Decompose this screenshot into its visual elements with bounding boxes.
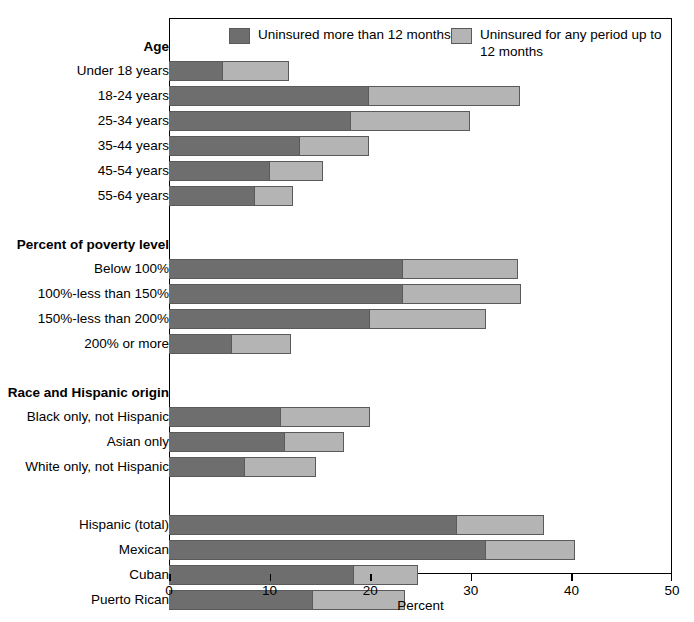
bars-layer	[169, 18, 672, 574]
group-heading-age: Age	[3, 40, 169, 54]
category-label: Cuban	[3, 568, 169, 582]
category-label: 55-64 years	[3, 189, 169, 203]
x-axis-tick	[169, 574, 171, 581]
x-axis-tick	[571, 574, 573, 581]
bar-row	[169, 457, 316, 477]
bar-segment-uninsured-any-period-up-to-12-months	[270, 161, 323, 181]
bar-segment-uninsured-any-period-up-to-12-months	[351, 111, 470, 131]
bar-segment-uninsured-more-than-12-months	[169, 111, 351, 131]
bar-segment-uninsured-more-than-12-months	[169, 334, 232, 354]
category-label: Puerto Rican	[3, 593, 169, 607]
x-axis-tick-label: 50	[664, 583, 679, 598]
category-label: Hispanic (total)	[3, 518, 169, 532]
bar-segment-uninsured-more-than-12-months	[169, 432, 285, 452]
category-label: Black only, not Hispanic	[3, 410, 169, 424]
category-label: Mexican	[3, 543, 169, 557]
bar-segment-uninsured-more-than-12-months	[169, 565, 354, 585]
x-axis-tick	[270, 574, 272, 581]
bar-segment-uninsured-any-period-up-to-12-months	[354, 565, 418, 585]
bar-row	[169, 515, 544, 535]
bar-row	[169, 309, 486, 329]
bar-segment-uninsured-more-than-12-months	[169, 86, 369, 106]
bar-segment-uninsured-more-than-12-months	[169, 136, 300, 156]
bar-segment-uninsured-any-period-up-to-12-months	[403, 284, 521, 304]
stacked-bar-chart: Uninsured more than 12 months Uninsured …	[0, 0, 694, 622]
bar-segment-uninsured-more-than-12-months	[169, 457, 245, 477]
x-axis-tick	[671, 574, 673, 581]
bar-segment-uninsured-more-than-12-months	[169, 61, 223, 81]
bar-segment-uninsured-any-period-up-to-12-months	[245, 457, 315, 477]
category-label: White only, not Hispanic	[3, 460, 169, 474]
bar-segment-uninsured-more-than-12-months	[169, 407, 281, 427]
bar-row	[169, 334, 291, 354]
x-axis-tick-label: 10	[262, 583, 277, 598]
bar-segment-uninsured-more-than-12-months	[169, 186, 255, 206]
bar-row	[169, 407, 370, 427]
category-label: Asian only	[3, 435, 169, 449]
bar-row	[169, 61, 289, 81]
bar-segment-uninsured-any-period-up-to-12-months	[300, 136, 369, 156]
bar-segment-uninsured-any-period-up-to-12-months	[281, 407, 371, 427]
bar-segment-uninsured-more-than-12-months	[169, 161, 270, 181]
category-label: 18-24 years	[3, 89, 169, 103]
category-label: 150%-less than 200%	[3, 312, 169, 326]
bar-segment-uninsured-any-period-up-to-12-months	[255, 186, 293, 206]
x-axis: 01020304050	[169, 574, 672, 575]
bar-segment-uninsured-any-period-up-to-12-months	[223, 61, 288, 81]
bar-segment-uninsured-any-period-up-to-12-months	[457, 515, 545, 535]
x-axis-tick-label: 40	[564, 583, 579, 598]
bar-row	[169, 284, 521, 304]
bar-row	[169, 565, 418, 585]
bar-row	[169, 540, 575, 560]
bar-row	[169, 259, 518, 279]
category-labels: AgeUnder 18 years18-24 years25-34 years3…	[0, 0, 169, 622]
category-label: 45-54 years	[3, 164, 169, 178]
category-label: Below 100%	[3, 262, 169, 276]
bar-segment-uninsured-more-than-12-months	[169, 540, 486, 560]
bar-row	[169, 136, 369, 156]
bar-row	[169, 111, 470, 131]
x-axis-tick	[471, 574, 473, 581]
group-heading-percent-of-poverty-level: Percent of poverty level	[3, 238, 169, 252]
x-axis-tick-label: 30	[463, 583, 478, 598]
bar-segment-uninsured-any-period-up-to-12-months	[232, 334, 290, 354]
category-label: 25-34 years	[3, 114, 169, 128]
x-axis-tick	[370, 574, 372, 581]
bar-row	[169, 432, 344, 452]
bar-segment-uninsured-any-period-up-to-12-months	[370, 309, 486, 329]
x-axis-title: Percent	[169, 598, 672, 613]
x-axis-tick-label: 0	[165, 583, 173, 598]
bar-segment-uninsured-any-period-up-to-12-months	[285, 432, 344, 452]
category-label: 100%-less than 150%	[3, 287, 169, 301]
bar-segment-uninsured-any-period-up-to-12-months	[403, 259, 518, 279]
bar-segment-uninsured-more-than-12-months	[169, 515, 457, 535]
group-heading-race-and-hispanic-origin: Race and Hispanic origin	[3, 386, 169, 400]
bar-segment-uninsured-any-period-up-to-12-months	[486, 540, 576, 560]
bar-row	[169, 186, 293, 206]
bar-segment-uninsured-more-than-12-months	[169, 259, 403, 279]
bar-row	[169, 161, 323, 181]
category-label: 200% or more	[3, 337, 169, 351]
category-label: 35-44 years	[3, 139, 169, 153]
x-axis-tick-label: 20	[363, 583, 378, 598]
bar-segment-uninsured-more-than-12-months	[169, 309, 370, 329]
bar-row	[169, 86, 520, 106]
bar-segment-uninsured-any-period-up-to-12-months	[369, 86, 520, 106]
bar-segment-uninsured-more-than-12-months	[169, 284, 403, 304]
category-label: Under 18 years	[3, 64, 169, 78]
